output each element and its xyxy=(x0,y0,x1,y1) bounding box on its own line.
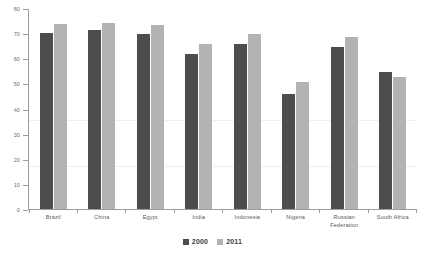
bar-2000 xyxy=(40,33,53,209)
bar-2000 xyxy=(379,72,392,210)
x-axis-category-label: South Africa xyxy=(369,214,418,229)
y-axis-tick-label: 20 xyxy=(14,157,20,163)
x-axis-category-label: India xyxy=(175,214,224,229)
bar-2000 xyxy=(88,30,101,209)
y-axis-tick-label: 0 xyxy=(17,207,20,213)
bar-chart: 80706050403020100 BrazilChinaEgyptIndiaI… xyxy=(0,0,425,257)
legend-swatch-icon xyxy=(217,239,223,245)
legend-label: 2011 xyxy=(226,238,242,245)
bar-group xyxy=(126,9,175,209)
category-label-line: Brazil xyxy=(29,214,78,222)
bar-2000 xyxy=(331,47,344,210)
y-axis-tick-mark xyxy=(23,210,28,211)
bar-group xyxy=(223,9,272,209)
category-label-line: Nigeria xyxy=(272,214,321,222)
y-axis-tick-mark xyxy=(23,185,28,186)
y-axis-tick-label: 70 xyxy=(14,31,20,37)
legend-item-2011[interactable]: 2011 xyxy=(217,238,242,245)
x-axis-tick-mark xyxy=(29,209,30,213)
y-axis-tick-label: 30 xyxy=(14,132,20,138)
bar-2011 xyxy=(54,24,67,209)
y-axis-tick-label: 60 xyxy=(14,56,20,62)
y-axis-tick-mark xyxy=(23,84,28,85)
category-label-line: India xyxy=(175,214,224,222)
x-axis-tick-mark xyxy=(222,209,223,213)
bar-2011 xyxy=(151,25,164,209)
bar-2000 xyxy=(234,44,247,209)
legend-item-2000[interactable]: 2000 xyxy=(183,238,208,245)
bar-groups xyxy=(29,9,417,209)
plot-area: 80706050403020100 xyxy=(28,9,417,210)
y-axis-tick-mark xyxy=(23,9,28,10)
y-axis-tick-mark xyxy=(23,59,28,60)
y-axis-tick-label: 10 xyxy=(14,182,20,188)
x-axis-category-label: Nigeria xyxy=(272,214,321,229)
category-label-line: China xyxy=(78,214,127,222)
category-label-line: South Africa xyxy=(369,214,418,222)
category-label-line: Egypt xyxy=(126,214,175,222)
chart-legend: 20002011 xyxy=(0,238,425,245)
x-axis-tick-mark xyxy=(319,209,320,213)
y-axis-tick-label: 80 xyxy=(14,6,20,12)
y-axis-tick-mark xyxy=(23,34,28,35)
x-axis-tick-mark xyxy=(368,209,369,213)
x-axis-tick-mark xyxy=(416,209,417,213)
legend-swatch-icon xyxy=(183,239,189,245)
bar-2000 xyxy=(185,54,198,209)
legend-label: 2000 xyxy=(192,238,208,245)
bar-2000 xyxy=(282,94,295,209)
x-axis-category-label: Egypt xyxy=(126,214,175,229)
bar-2011 xyxy=(393,77,406,210)
x-axis-tick-mark xyxy=(271,209,272,213)
x-axis-category-labels: BrazilChinaEgyptIndiaIndonesiaNigeriaRus… xyxy=(29,214,417,229)
bar-2011 xyxy=(345,37,358,210)
bar-2011 xyxy=(296,82,309,210)
category-label-line: Federation xyxy=(320,222,369,230)
bar-2000 xyxy=(137,34,150,209)
bar-group xyxy=(175,9,224,209)
bar-group xyxy=(78,9,127,209)
bar-2011 xyxy=(199,44,212,209)
x-axis-category-label: China xyxy=(78,214,127,229)
category-label-line: Russian xyxy=(320,214,369,222)
bar-group xyxy=(369,9,418,209)
bar-group xyxy=(29,9,78,209)
y-axis-tick-mark xyxy=(23,135,28,136)
bar-group xyxy=(272,9,321,209)
x-axis-tick-mark xyxy=(77,209,78,213)
y-axis-tick-mark xyxy=(23,160,28,161)
y-axis-tick-label: 40 xyxy=(14,107,20,113)
bar-2011 xyxy=(102,23,115,209)
x-axis-tick-mark xyxy=(174,209,175,213)
x-axis-category-label: Indonesia xyxy=(223,214,272,229)
bar-group xyxy=(320,9,369,209)
bar-2011 xyxy=(248,34,261,209)
x-axis-tick-mark xyxy=(125,209,126,213)
x-axis-category-label: RussianFederation xyxy=(320,214,369,229)
y-axis-tick-mark xyxy=(23,110,28,111)
y-axis-tick-label: 50 xyxy=(14,81,20,87)
x-axis-category-label: Brazil xyxy=(29,214,78,229)
category-label-line: Indonesia xyxy=(223,214,272,222)
